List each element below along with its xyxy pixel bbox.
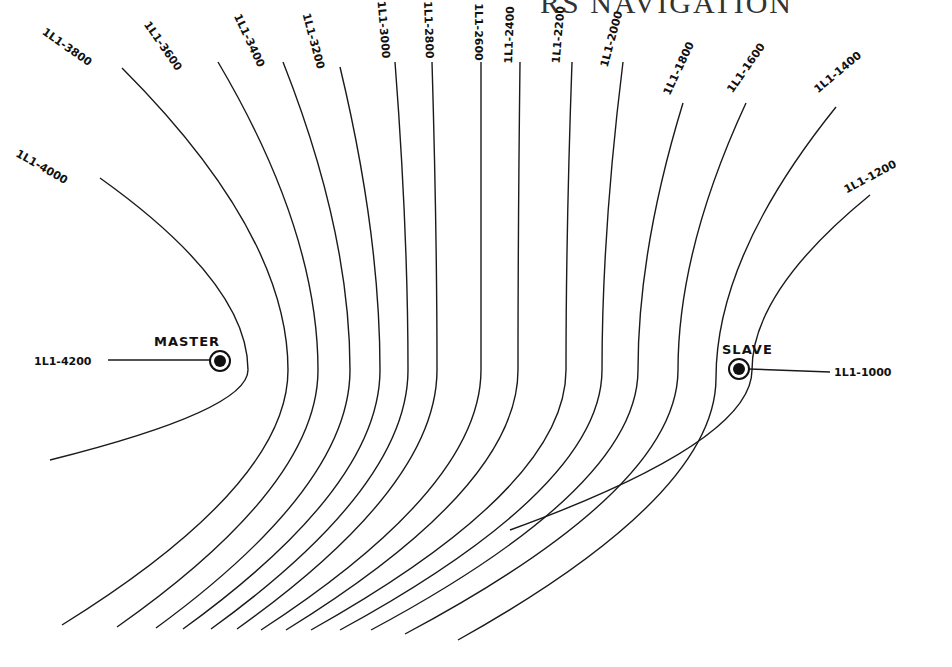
master-station-dot-icon (214, 355, 226, 367)
line-of-position (261, 62, 481, 630)
line-of-position-label: 1L1-1600 (724, 40, 768, 95)
line-of-position-label: 1L1-4000 (14, 147, 71, 187)
line-of-position-label: 1L1-2400 (502, 6, 517, 64)
slave-station: SLAVE 1L1-1000 (722, 342, 892, 379)
line-of-position-label: 1L1-3200 (300, 12, 328, 71)
line-of-position-label: 1L1-2200 (550, 5, 568, 64)
line-of-position-label: 1L1-3400 (231, 12, 267, 70)
line-of-position (211, 62, 408, 629)
line-of-position (458, 107, 836, 640)
line-of-position-label: 1L1-1800 (661, 39, 697, 97)
line-of-position (510, 195, 870, 530)
slave-station-dot-icon (733, 363, 745, 375)
master-station: MASTER 1L1-4200 (34, 334, 230, 371)
line-of-position (286, 62, 520, 630)
line-of-position (50, 178, 248, 460)
line-of-position-label: 1L1-2800 (421, 1, 436, 59)
line-of-position-label: 1L1-3000 (375, 0, 393, 59)
line-of-position-label: 1L1-2000 (598, 9, 626, 68)
master-station-label: MASTER (154, 334, 220, 349)
line-of-position-label: 1L1-3600 (141, 19, 185, 74)
line-of-position (371, 103, 683, 630)
master-line-label: 1L1-4200 (34, 355, 92, 368)
slave-line-label: 1L1-1000 (834, 366, 892, 379)
line-of-position-label: 1L1-1200 (842, 158, 899, 197)
slave-baseline-leader (748, 369, 830, 372)
slave-station-label: SLAVE (722, 342, 773, 357)
hyperbolic-lop-diagram: 1L1-40001L1-38001L1-36001L1-34001L1-3200… (0, 0, 952, 667)
line-of-position-label: 1L1-2600 (472, 3, 485, 61)
line-of-position (405, 103, 746, 634)
line-of-position-label: 1L1-1400 (812, 49, 865, 96)
line-of-position-label: 1L1-3800 (40, 25, 95, 69)
